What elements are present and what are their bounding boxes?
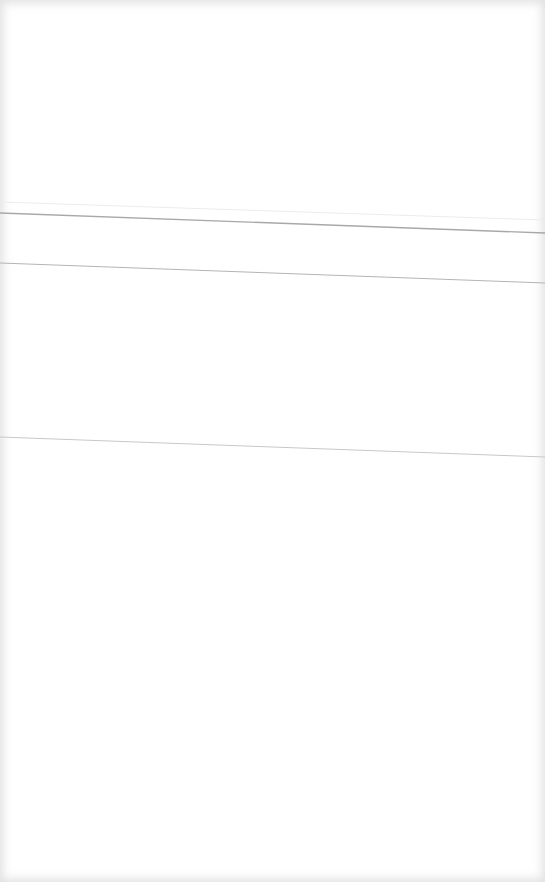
faint-rule-top [0,202,545,220]
light-rule-lower [0,437,545,457]
blank-page [0,0,545,882]
medium-rule [0,263,545,283]
dark-rule [0,213,545,233]
ruled-lines [0,0,545,882]
